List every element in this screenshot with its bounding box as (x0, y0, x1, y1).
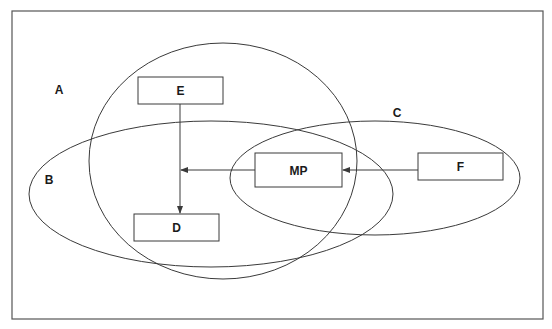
region-label-b: B (45, 173, 54, 187)
venn-flow-diagram: E MP F D A B C (0, 0, 552, 329)
box-mp: MP (255, 153, 342, 187)
region-label-c: C (393, 106, 402, 120)
box-d-label: D (172, 221, 181, 235)
region-label-a: A (55, 83, 64, 97)
box-d: D (134, 214, 219, 241)
box-f: F (418, 153, 503, 180)
box-mp-label: MP (290, 164, 308, 178)
box-f-label: F (457, 160, 464, 174)
box-e-label: E (176, 84, 184, 98)
box-e: E (138, 77, 223, 104)
